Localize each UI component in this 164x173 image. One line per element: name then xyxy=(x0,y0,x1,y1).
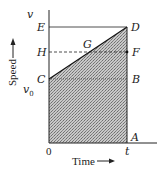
point-F-dot xyxy=(126,51,129,54)
label-H: H xyxy=(36,46,47,59)
label-D: D xyxy=(130,21,140,34)
speed-time-diagram: v E H C v0 G D F B A 0 t Time Speed xyxy=(0,0,164,173)
label-G: G xyxy=(83,38,92,51)
label-E: E xyxy=(36,21,45,34)
label-v0-sub: 0 xyxy=(29,90,33,98)
label-A: A xyxy=(130,131,139,144)
label-C: C xyxy=(37,73,46,86)
time-arrow-icon xyxy=(97,159,115,164)
label-v0: v0 xyxy=(23,83,34,98)
label-t: t xyxy=(125,145,130,158)
label-origin-0: 0 xyxy=(46,145,52,157)
label-F: F xyxy=(131,46,140,59)
label-v: v xyxy=(27,8,34,21)
y-axis-title: Speed xyxy=(6,59,18,86)
x-axis-title: Time xyxy=(72,155,95,167)
label-B: B xyxy=(131,73,140,86)
speed-arrow-icon xyxy=(11,38,16,58)
rectangle-area-0CBA xyxy=(49,79,127,143)
